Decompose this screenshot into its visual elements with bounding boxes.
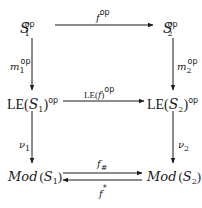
label-bottom-backward-arrow: f* [99, 183, 107, 200]
node-mid-right: LE(S2)op [147, 93, 198, 118]
node-top-right: S2op [163, 17, 178, 42]
label-left-lower-arrow: ν1 [19, 139, 30, 155]
label-right-upper-arrow: m2op [177, 56, 198, 77]
label-bottom-forward-arrow: f# [97, 158, 107, 174]
label-top-arrow: fop [96, 7, 110, 24]
node-bottom-right: Mod(S2) [147, 169, 201, 190]
node-mid-left: LE(S1)op [7, 93, 58, 118]
label-left-upper-arrow: m1op [10, 56, 31, 77]
node-top-left: S1op [20, 17, 35, 42]
label-middle-arrow: LE(f)op [84, 84, 114, 101]
node-bottom-left: Mod(S1) [8, 169, 62, 190]
label-right-lower-arrow: ν2 [178, 139, 189, 155]
